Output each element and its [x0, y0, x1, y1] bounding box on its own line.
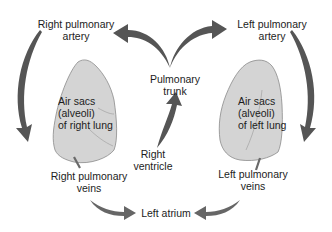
arrow-trunk-to-right-artery — [113, 24, 170, 68]
label-left-atrium: Left atrium — [138, 207, 194, 219]
arrow-trunk-to-left-artery — [170, 20, 227, 68]
label-right-pulmonary-veins: Right pulmonary veins — [46, 170, 132, 194]
label-left-lung-air-sacs: Air sacs (alveoli) of left lung — [238, 95, 286, 131]
arrow-ventricle-to-trunk — [157, 92, 182, 148]
arrow-left-veins-to-atrium — [194, 200, 240, 220]
arrow-right-artery-to-lung — [16, 30, 42, 142]
arrow-left-artery-to-lung — [290, 30, 316, 142]
label-right-pulmonary-artery: Right pulmonary artery — [36, 18, 116, 42]
label-pulmonary-trunk: Pulmonary trunk — [140, 73, 210, 97]
label-left-pulmonary-veins: Left pulmonary veins — [210, 168, 296, 192]
label-left-pulmonary-artery: Left pulmonary artery — [232, 18, 312, 42]
arrow-right-veins-to-atrium — [90, 200, 136, 220]
pulmonary-circulation-diagram: Right pulmonary artery Left pulmonary ar… — [0, 0, 332, 232]
label-right-lung-air-sacs: Air sacs (alveoli) of right lung — [58, 95, 113, 131]
label-right-ventricle: Right ventricle — [128, 148, 178, 172]
